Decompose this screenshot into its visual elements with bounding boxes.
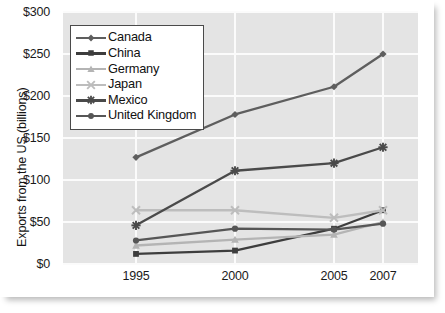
legend-marker-diamond-icon: [76, 31, 106, 45]
data-point-circle: [380, 221, 386, 227]
legend-marker-cross-x-icon: [76, 78, 106, 92]
y-tick-label: $150: [0, 132, 50, 145]
data-point-asterisk: [131, 221, 140, 230]
y-tick-label: $50: [0, 216, 50, 229]
legend-label: Germany: [108, 63, 159, 76]
legend-label: Japan: [108, 78, 142, 91]
series-mexico: [131, 143, 387, 230]
chart-legend: CanadaChinaGermanyJapanMexicoUnited King…: [70, 25, 204, 130]
legend-marker-asterisk-icon: [76, 93, 106, 107]
y-tick-label: $100: [0, 174, 50, 187]
legend-marker-svg: [76, 109, 106, 123]
legend-marker-svg: [76, 46, 106, 60]
data-point-square: [232, 248, 238, 254]
legend-marker-circle-icon: [76, 109, 106, 123]
legend-label: China: [108, 47, 140, 60]
data-point-cross-x: [87, 81, 95, 89]
y-tick-label: $200: [0, 90, 50, 103]
data-point-asterisk: [378, 143, 387, 152]
legend-marker-triangle-icon: [76, 62, 106, 76]
legend-marker-svg: [76, 62, 106, 76]
data-point-asterisk: [230, 166, 239, 175]
legend-marker-square-icon: [76, 46, 106, 60]
legend-marker-svg: [76, 31, 106, 45]
legend-label: Mexico: [108, 94, 147, 107]
x-tick-label: 1995: [106, 270, 166, 283]
data-point-square: [88, 51, 94, 57]
legend-item-united-kingdom[interactable]: United Kingdom: [76, 108, 196, 124]
data-point-circle: [232, 226, 238, 232]
data-point-asterisk: [87, 96, 96, 105]
data-point-circle: [331, 226, 337, 232]
series-japan: [132, 206, 387, 222]
legend-label: United Kingdom: [108, 109, 196, 122]
x-tick-label: 2000: [205, 270, 265, 283]
legend-item-germany[interactable]: Germany: [76, 61, 196, 77]
legend-item-mexico[interactable]: Mexico: [76, 92, 196, 108]
data-point-triangle: [87, 65, 94, 72]
legend-item-canada[interactable]: Canada: [76, 30, 196, 46]
legend-marker-svg: [76, 93, 106, 107]
data-point-asterisk: [329, 159, 338, 168]
legend-marker-svg: [76, 78, 106, 92]
data-point-diamond: [231, 111, 238, 118]
legend-item-japan[interactable]: Japan: [76, 77, 196, 93]
x-tick-label: 2007: [353, 270, 413, 283]
y-tick-label: $0: [0, 258, 50, 271]
y-tick-label: $250: [0, 48, 50, 61]
data-point-diamond: [132, 154, 139, 161]
data-point-diamond: [88, 34, 95, 41]
y-tick-label: $300: [0, 6, 50, 19]
legend-label: Canada: [108, 31, 152, 44]
data-point-circle: [88, 113, 94, 119]
data-point-square: [133, 251, 139, 257]
data-point-circle: [133, 237, 139, 243]
legend-item-china[interactable]: China: [76, 46, 196, 62]
chart-figure: Exports from the US (billions) $0$50$100…: [0, 0, 445, 313]
chart-card: Exports from the US (billions) $0$50$100…: [0, 0, 434, 297]
